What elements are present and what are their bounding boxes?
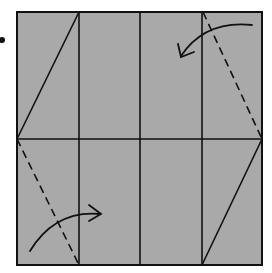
origami-fold-diagram bbox=[0, 0, 272, 273]
step-bullet bbox=[0, 37, 5, 43]
